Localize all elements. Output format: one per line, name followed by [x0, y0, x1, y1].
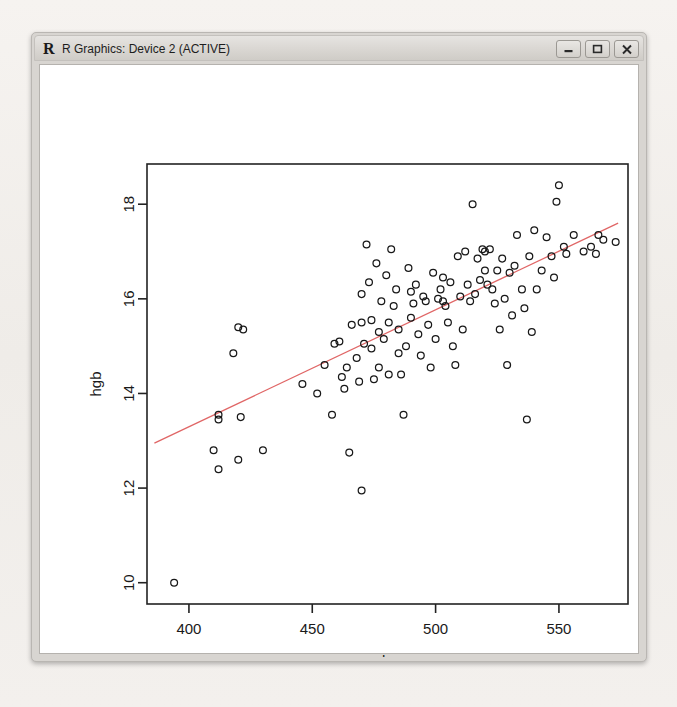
data-point: [482, 267, 489, 274]
data-point: [314, 390, 321, 397]
data-point: [343, 364, 350, 371]
maximize-button[interactable]: [585, 40, 610, 58]
maximize-icon: [592, 44, 603, 54]
data-point: [528, 329, 535, 336]
data-point: [543, 234, 550, 241]
data-point: [395, 350, 402, 357]
window-title: R Graphics: Device 2 (ACTIVE): [62, 41, 230, 58]
close-button[interactable]: [614, 40, 639, 58]
data-point: [346, 449, 353, 456]
minimize-icon: [563, 45, 574, 54]
window-titlebar[interactable]: R R Graphics: Device 2 (ACTIVE): [34, 35, 644, 61]
data-point: [329, 411, 336, 418]
data-point: [375, 329, 382, 336]
data-point: [383, 272, 390, 279]
data-point: [467, 298, 474, 305]
data-point: [427, 364, 434, 371]
data-point: [358, 487, 365, 494]
data-point: [553, 198, 560, 205]
y-tick-label: 12: [121, 480, 138, 497]
data-point: [373, 260, 380, 267]
data-point: [504, 362, 511, 369]
data-point: [494, 267, 501, 274]
data-point: [356, 378, 363, 385]
data-point: [210, 447, 217, 454]
data-point: [509, 312, 516, 319]
data-point: [551, 274, 558, 281]
data-point: [496, 326, 503, 333]
data-point: [385, 319, 392, 326]
data-point: [341, 385, 348, 392]
data-point: [363, 241, 370, 248]
page-background: R R Graphics: Device 2 (ACTIVE) 4004: [0, 0, 677, 707]
data-point: [511, 262, 518, 269]
data-point: [215, 416, 222, 423]
data-point: [338, 374, 345, 381]
y-tick-label: 18: [121, 196, 138, 213]
data-point: [410, 300, 417, 307]
data-point: [398, 371, 405, 378]
data-point: [437, 286, 444, 293]
data-point: [425, 321, 432, 328]
data-point: [432, 336, 439, 343]
data-point: [417, 352, 424, 359]
data-point: [489, 286, 496, 293]
data-point: [171, 579, 178, 586]
data-point: [415, 331, 422, 338]
data-point: [491, 300, 498, 307]
data-point: [358, 291, 365, 298]
x-tick-label: 400: [176, 620, 201, 637]
data-point: [447, 279, 454, 286]
data-point: [526, 253, 533, 260]
data-point: [378, 298, 385, 305]
data-point: [519, 286, 526, 293]
data-point: [501, 295, 508, 302]
data-point: [593, 250, 600, 257]
data-point: [612, 239, 619, 246]
data-point: [353, 355, 360, 362]
data-point: [445, 319, 452, 326]
y-axis-label: hgb: [87, 371, 104, 396]
minimize-button[interactable]: [556, 40, 581, 58]
data-point: [449, 343, 456, 350]
data-point: [388, 246, 395, 253]
data-point: [215, 466, 222, 473]
data-point: [452, 362, 459, 369]
r-graphics-window: R R Graphics: Device 2 (ACTIVE) 4004: [31, 32, 647, 662]
y-tick-label: 16: [121, 290, 138, 307]
data-point: [412, 281, 419, 288]
data-point: [380, 336, 387, 343]
close-icon: [621, 44, 633, 55]
data-point: [580, 248, 587, 255]
data-point: [260, 447, 267, 454]
data-point: [523, 416, 530, 423]
data-point: [230, 350, 237, 357]
scatter-plot: 4004505005501012141618rbchgb: [40, 65, 640, 657]
data-point: [368, 317, 375, 324]
data-point: [474, 255, 481, 262]
y-tick-label: 10: [121, 574, 138, 591]
data-point: [366, 279, 373, 286]
data-point: [533, 286, 540, 293]
data-point: [403, 343, 410, 350]
data-point: [440, 274, 447, 281]
data-point: [588, 243, 595, 250]
data-point: [393, 286, 400, 293]
graphics-client-area: 4004505005501012141618rbchgb: [39, 64, 639, 654]
data-point: [477, 277, 484, 284]
data-point: [408, 314, 415, 321]
data-point: [531, 227, 538, 234]
data-point: [235, 456, 242, 463]
data-point: [521, 305, 528, 312]
data-point: [563, 250, 570, 257]
data-point: [405, 265, 412, 272]
data-point: [459, 326, 466, 333]
data-point: [408, 288, 415, 295]
data-point: [570, 232, 577, 239]
data-point: [556, 182, 563, 189]
data-point: [390, 303, 397, 310]
data-point: [348, 321, 355, 328]
data-point: [538, 267, 545, 274]
y-tick-label: 14: [121, 385, 138, 402]
plot-frame: [147, 164, 628, 604]
